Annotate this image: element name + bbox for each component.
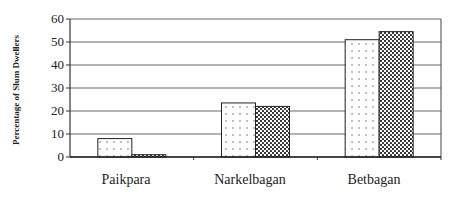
bars [98, 32, 413, 157]
bar-paikpara-series-1 [98, 139, 132, 157]
bar-narkelbagan-series-2 [256, 106, 290, 157]
x-category-betbagan: Betbagan [314, 172, 434, 188]
bar-chart-plot [0, 0, 456, 197]
bar-betbagan-series-1 [345, 40, 379, 157]
bar-narkelbagan-series-1 [222, 103, 256, 157]
bar-betbagan-series-2 [379, 32, 413, 157]
x-category-paikpara: Paikpara [66, 172, 186, 188]
x-category-narkelbagan: Narkelbagan [190, 172, 310, 188]
